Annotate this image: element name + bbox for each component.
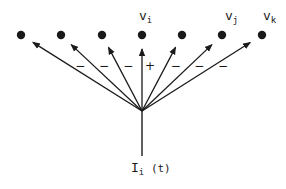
connection-arrow-n5 — [142, 47, 176, 111]
connection-arrow-vk — [142, 43, 250, 112]
inhibitory-sign: − — [99, 59, 109, 73]
neuron-node-vk — [258, 31, 266, 39]
excitatory-sign: + — [145, 59, 155, 73]
connection-arrow-vj — [142, 45, 212, 111]
input-label: Ii (t) — [131, 160, 171, 177]
inhibitory-sign: − — [75, 59, 85, 73]
neuron-node-n5 — [178, 31, 186, 39]
node-label-vj: vj — [225, 8, 238, 25]
connection-arrow-n2 — [71, 45, 142, 111]
lateral-inhibition-diagram: −−−+−−− vivjvk Ii (t) — [0, 0, 286, 189]
connection-arrow-n3 — [109, 47, 143, 111]
inhibitory-sign: − — [194, 59, 204, 73]
neuron-node-n1 — [17, 31, 25, 39]
neuron-node-vi — [138, 31, 146, 39]
inhibitory-sign: − — [123, 59, 133, 73]
node-label-vi: vi — [139, 8, 152, 25]
inhibitory-sign: − — [171, 59, 181, 73]
node-label-vk: vk — [263, 8, 277, 25]
neuron-node-n2 — [57, 31, 65, 39]
connection-arrow-n1 — [33, 42, 142, 111]
neuron-node-n3 — [98, 31, 106, 39]
inhibitory-sign: − — [218, 59, 228, 73]
neuron-node-vj — [218, 31, 226, 39]
